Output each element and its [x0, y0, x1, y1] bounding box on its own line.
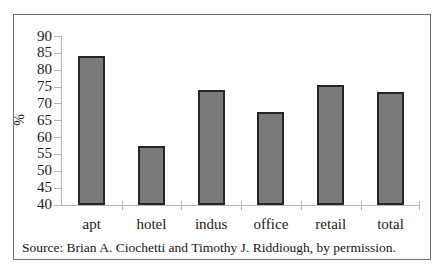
bar-office — [257, 112, 284, 206]
y-tick-mark — [54, 137, 61, 138]
y-tick-mark — [54, 205, 61, 206]
x-tick-label: office — [239, 216, 303, 232]
x-tick-label: apt — [60, 216, 124, 232]
x-axis-line — [61, 205, 419, 206]
chart-frame: % 4045505560657075808590apthotelindusoff… — [13, 14, 431, 260]
y-axis-line — [61, 36, 62, 206]
y-tick-label: 50 — [20, 163, 52, 178]
y-tick-label: 45 — [20, 180, 52, 195]
y-tick-mark — [54, 188, 61, 189]
y-tick-mark — [54, 53, 61, 54]
x-axis-end-tick — [419, 201, 420, 210]
bar-indus — [198, 90, 225, 206]
y-tick-label: 80 — [20, 62, 52, 77]
y-tick-label: 70 — [20, 96, 52, 111]
bar-hotel — [138, 146, 165, 206]
x-boundary-tick — [181, 201, 182, 210]
y-tick-mark — [54, 103, 61, 104]
x-tick-label: hotel — [119, 216, 183, 232]
y-tick-mark — [54, 171, 61, 172]
y-tick-mark — [54, 154, 61, 155]
x-boundary-tick — [122, 201, 123, 210]
y-tick-label: 85 — [20, 45, 52, 60]
x-boundary-tick — [361, 201, 362, 210]
bar-retail — [317, 85, 344, 206]
y-tick-mark — [54, 36, 61, 37]
y-tick-label: 60 — [20, 130, 52, 145]
figure: % 4045505560657075808590apthotelindusoff… — [0, 0, 444, 273]
x-boundary-tick — [301, 201, 302, 210]
bar-chart-plot: % 4045505560657075808590apthotelindusoff… — [14, 15, 430, 259]
y-tick-mark — [54, 120, 61, 121]
y-tick-label: 90 — [20, 29, 52, 44]
x-tick-label: total — [359, 216, 423, 232]
x-boundary-tick — [241, 201, 242, 210]
bar-total — [377, 92, 404, 206]
bar-apt — [78, 56, 105, 205]
y-tick-mark — [54, 87, 61, 88]
y-tick-label: 75 — [20, 79, 52, 94]
y-tick-label: 55 — [20, 146, 52, 161]
source-caption: Source: Brian A. Ciochetti and Timothy J… — [22, 240, 396, 256]
y-tick-label: 65 — [20, 113, 52, 128]
x-tick-label: retail — [299, 216, 363, 232]
y-tick-label: 40 — [20, 197, 52, 212]
x-tick-label: indus — [179, 216, 243, 232]
y-tick-mark — [54, 70, 61, 71]
